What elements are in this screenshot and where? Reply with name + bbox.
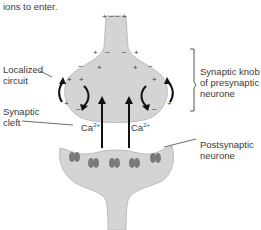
svg-text:+: + (79, 75, 84, 84)
svg-text:+: + (97, 63, 102, 72)
knob-bracket (190, 49, 196, 111)
svg-text:+: + (93, 48, 98, 57)
svg-text:+: + (64, 99, 69, 108)
svg-text:+: + (122, 12, 127, 21)
svg-text:–: – (148, 61, 153, 70)
svg-text:–: – (152, 104, 157, 113)
svg-text:–: – (105, 47, 110, 56)
svg-text:–: – (78, 61, 83, 70)
label-synaptic-knob: Synaptic knob of presynaptic neurone (200, 66, 260, 99)
ion-label-left: Ca2+ (81, 120, 100, 133)
label-postsynaptic-neurone: Postsynaptic neurone (200, 139, 254, 161)
svg-text:–: – (76, 104, 81, 113)
leader-postsynaptic (164, 139, 196, 147)
svg-text:+: + (152, 75, 157, 84)
circuit-arrow-left-outer (59, 82, 63, 102)
label-synaptic-cleft: Synaptic cleft (3, 106, 39, 128)
svg-text:–: – (109, 11, 114, 20)
svg-text:–: – (115, 11, 120, 20)
ion-label-right: Ca2+ (131, 120, 150, 133)
svg-text:+: + (102, 12, 107, 21)
svg-text:+: + (134, 48, 139, 57)
svg-text:+: + (133, 63, 138, 72)
label-localized-circuit: Localized circuit (3, 64, 43, 86)
svg-text:–: – (122, 47, 127, 56)
svg-text:+: + (67, 75, 72, 84)
